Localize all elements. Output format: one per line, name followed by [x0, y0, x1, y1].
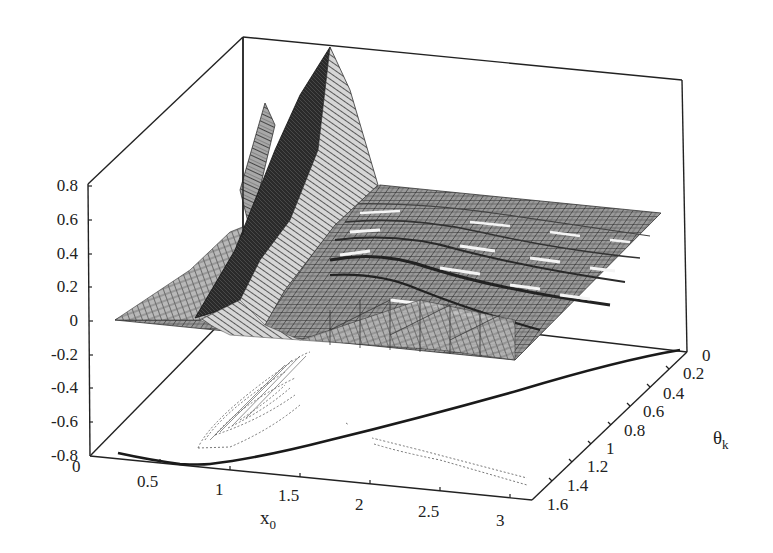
z-tick-neg0.2: -0.2	[18, 346, 78, 363]
x-tick-3: 3	[496, 512, 505, 529]
y-axis-ticks	[549, 366, 669, 481]
z-tick-neg0.4: -0.4	[18, 379, 78, 396]
x-axis-title-sub: 0	[270, 517, 277, 532]
y-tick-1.6: 1.6	[547, 496, 568, 513]
y-axis-title: θk	[713, 428, 729, 451]
x-tick-1.5: 1.5	[278, 487, 299, 504]
x-tick-0: 0	[72, 458, 81, 475]
surface-plot	[0, 0, 773, 553]
floor-curve	[118, 350, 680, 465]
y-tick-1.2: 1.2	[587, 458, 608, 475]
y-axis-title-main: θ	[713, 427, 722, 448]
z-tick-0.6: 0.6	[18, 211, 78, 228]
x-tick-2: 2	[355, 496, 364, 513]
y-axis-title-sub: k	[722, 437, 729, 452]
x-tick-1: 1	[215, 481, 224, 498]
x-axis-title-main: x	[260, 507, 270, 528]
y-tick-1.4: 1.4	[567, 477, 588, 494]
z-tick-0: 0	[18, 312, 78, 329]
z-tick-neg0.8: -0.8	[18, 447, 78, 464]
x-tick-0.5: 0.5	[137, 473, 158, 490]
y-tick-0.4: 0.4	[663, 385, 684, 402]
z-tick-0.2: 0.2	[18, 278, 78, 295]
floor-contours-solid	[210, 356, 306, 440]
y-tick-0: 0	[702, 347, 711, 364]
z-tick-0.4: 0.4	[18, 245, 78, 262]
x-tick-2.5: 2.5	[418, 503, 439, 520]
y-tick-0.6: 0.6	[643, 403, 664, 420]
x-axis-title: x0	[260, 508, 276, 531]
floor-contours	[198, 352, 527, 485]
y-tick-0.2: 0.2	[683, 365, 704, 382]
y-tick-1: 1	[606, 440, 615, 457]
y-tick-0.8: 0.8	[624, 422, 645, 439]
z-tick-0.8: 0.8	[18, 177, 78, 194]
z-tick-neg0.6: -0.6	[18, 413, 78, 430]
